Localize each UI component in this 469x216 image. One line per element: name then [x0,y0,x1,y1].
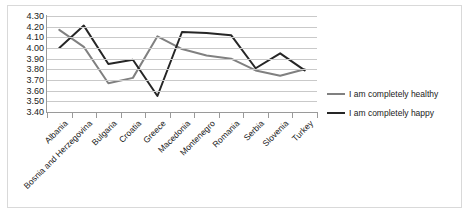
legend-line-swatch [327,93,345,95]
plot-area [47,16,317,112]
x-axis-labels: AlbaniaBosnia and HerzegovinaBulgariaCro… [47,119,317,209]
x-axis-tick [96,113,97,118]
x-axis-tick [47,113,48,118]
series-line-2 [59,26,304,96]
gridline [47,69,317,70]
series-lines [47,16,317,112]
x-axis-tick [194,113,195,118]
y-axis-tick-label: 3.50 [12,97,44,106]
gridline [47,27,317,28]
legend-item[interactable]: I am completely healthy [327,88,457,99]
gridline [47,16,317,17]
y-axis-tick-label: 3.70 [12,76,44,85]
x-axis-tick [170,113,171,118]
y-axis-tick-label: 4.10 [12,33,44,42]
y-axis-tick-label: 4.00 [12,44,44,53]
gridline [47,37,317,38]
x-axis-tick [243,113,244,118]
y-axis-labels: 4.304.204.104.003.903.803.703.603.503.40 [12,16,44,112]
legend-item[interactable]: I am completely happy [327,107,457,118]
legend-label: I am completely happy [349,108,434,118]
legend-label: I am completely healthy [349,89,438,99]
chart-legend: I am completely healthyI am completely h… [327,88,457,126]
gridline [47,48,317,49]
y-axis-line [46,15,47,113]
legend-line-swatch [327,112,345,114]
gridline [47,91,317,92]
chart-container: 4.304.204.104.003.903.803.703.603.503.40… [0,0,469,216]
x-axis-tick [121,113,122,118]
x-axis-tick [268,113,269,118]
x-axis-tick [145,113,146,118]
gridline [47,101,317,102]
gridline [47,59,317,60]
y-axis-tick-label: 3.40 [12,108,44,117]
y-axis-tick-label: 4.30 [12,12,44,21]
x-axis-tick [219,113,220,118]
x-axis-tick [72,113,73,118]
gridline [47,80,317,81]
x-axis-ticks [47,113,317,118]
y-axis-tick-label: 3.90 [12,54,44,63]
y-axis-tick-label: 3.60 [12,86,44,95]
x-axis-tick [292,113,293,118]
x-axis-tick [317,113,318,118]
y-axis-tick-label: 3.80 [12,65,44,74]
y-axis-tick-label: 4.20 [12,22,44,31]
